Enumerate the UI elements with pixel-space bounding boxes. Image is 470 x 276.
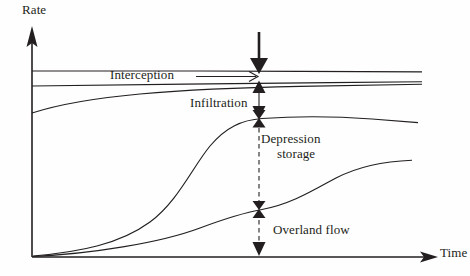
curve-depression-storage (33, 117, 418, 256)
depression-storage-label-line2: storage (261, 146, 321, 161)
overland-flow-down-arrowhead-icon (253, 242, 266, 256)
depression-storage-label-line1: Depression (261, 131, 321, 146)
interception-arrow (196, 72, 258, 82)
depression-storage-label: Depression storage (261, 131, 321, 161)
infiltration-label: Infiltration (190, 95, 248, 110)
curve-overland-flow (33, 160, 412, 256)
interception-label: Interception (110, 67, 174, 82)
hydrograph-diagram: Rate Time Interception Infiltration Depr… (0, 0, 470, 276)
axis-group (32, 40, 428, 257)
vertical-input-arrow (250, 32, 268, 74)
diagram-canvas (0, 0, 470, 276)
curve-rainfall-intensity (32, 71, 422, 72)
x-axis-label: Time (440, 245, 467, 260)
overland-flow-label: Overland flow (273, 222, 350, 237)
y-axis-label: Rate (22, 2, 46, 17)
